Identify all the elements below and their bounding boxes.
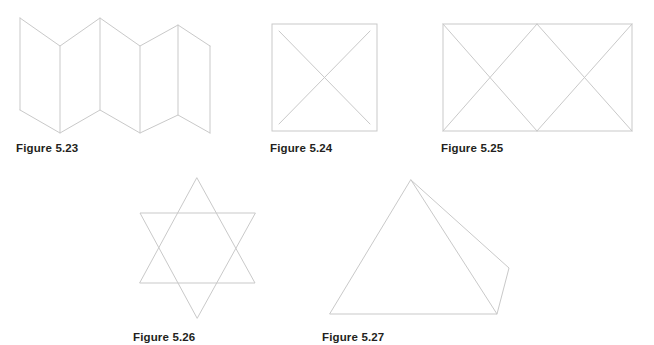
figure-caption-5-26: Figure 5.26: [133, 330, 195, 344]
figure-5-24: Figure 5.24: [260, 0, 390, 165]
figure-5-23: Figure 5.23: [0, 0, 250, 165]
figure-caption-5-27: Figure 5.27: [322, 330, 384, 344]
star-triangle-downward: [140, 213, 255, 318]
figure-5-27: Figure 5.27: [310, 168, 540, 345]
accordion-folded-strip-drawing: [0, 0, 250, 150]
star-of-david-drawing: [125, 168, 305, 328]
figure-caption-5-23: Figure 5.23: [16, 141, 78, 155]
pyramid-right-face: [411, 180, 509, 314]
pyramid-wireframe-drawing: [310, 168, 540, 328]
figure-caption-5-25: Figure 5.25: [441, 141, 503, 155]
rectangle-outline: [443, 24, 632, 131]
pyramid-front-face: [330, 180, 497, 314]
square-with-diagonals-drawing: [260, 0, 390, 150]
star-triangle-upward: [140, 178, 255, 283]
rectangle-with-zigzag-triangles-drawing: [430, 0, 645, 150]
figure-5-25: Figure 5.25: [430, 0, 645, 165]
accordion-top-edge: [20, 18, 210, 46]
figure-sheet: Figure 5.23 Figure 5.24 Figure 5.25: [0, 0, 654, 345]
figure-5-26: Figure 5.26: [125, 168, 305, 345]
figure-caption-5-24: Figure 5.24: [270, 141, 332, 155]
accordion-bottom-edge: [20, 110, 210, 133]
